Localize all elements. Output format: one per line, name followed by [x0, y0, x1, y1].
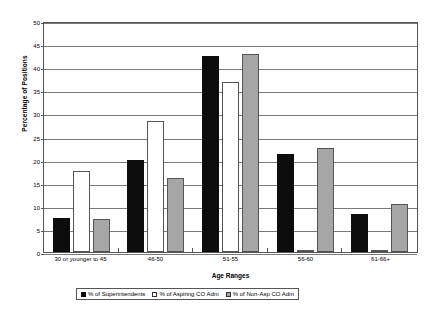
bar-3: [317, 148, 334, 252]
x-axis-tick-label: 56-60: [268, 256, 343, 268]
bar-group: [342, 23, 417, 252]
bar-group: [193, 23, 268, 252]
bar-2: [222, 82, 239, 252]
x-axis-tick-label: 30 or younger to 45: [43, 256, 118, 268]
y-axis-tick-label: 20: [0, 159, 40, 165]
legend-item-label: % of Superintendents: [88, 291, 145, 297]
y-axis-tick-label: 10: [0, 205, 40, 211]
black-square-swatch: [81, 292, 86, 297]
x-axis-tick-label: 51-55: [193, 256, 268, 268]
y-axis-tick-label: 25: [0, 136, 40, 142]
bar-groups: [44, 23, 417, 252]
x-axis-tick-label: 61-66+: [343, 256, 418, 268]
y-axis-tick-label: 0: [0, 251, 40, 257]
y-axis-tick-label: 50: [0, 20, 40, 26]
legend-item-label: % of Aspiring CO Adm: [159, 291, 218, 297]
bar-3: [93, 219, 110, 252]
legend-item: % of Aspiring CO Adm: [152, 291, 218, 297]
bar-1: [277, 154, 294, 252]
y-axis-tick-label: 45: [0, 43, 40, 49]
bar-3: [167, 178, 184, 252]
white-square-swatch: [152, 292, 157, 297]
bar-1: [351, 214, 368, 252]
bar-1: [127, 160, 144, 252]
bar-group: [268, 23, 343, 252]
x-axis-tick-label: 46-50: [118, 256, 193, 268]
bar-2: [73, 171, 90, 252]
y-tick-mark: [41, 254, 44, 255]
gridline: [44, 254, 417, 255]
bar-group: [119, 23, 194, 252]
legend-item: % of Non-Asp CO Adm: [226, 291, 294, 297]
bar-2: [371, 250, 388, 252]
chart-legend: % of Superintendents% of Aspiring CO Adm…: [76, 288, 299, 300]
y-axis-tick-label: 40: [0, 66, 40, 72]
y-axis-tick-label: 35: [0, 89, 40, 95]
gray-square-swatch: [226, 292, 231, 297]
x-axis-title: Age Ranges: [43, 272, 418, 279]
bar-3: [391, 204, 408, 252]
bar-2: [147, 121, 164, 252]
bar-2: [297, 250, 314, 252]
y-axis-tick-label: 30: [0, 112, 40, 118]
legend-item: % of Superintendents: [81, 291, 145, 297]
bar-group: [44, 23, 119, 252]
y-axis-tick-label: 5: [0, 228, 40, 234]
bar-3: [242, 54, 259, 252]
plot-area: 05101520253035404550: [43, 22, 418, 253]
y-axis-tick-label: 15: [0, 182, 40, 188]
legend-item-label: % of Non-Asp CO Adm: [233, 291, 294, 297]
x-axis-tick-labels: 30 or younger to 4546-5051-5556-6061-66+: [43, 256, 418, 268]
bar-1: [53, 218, 70, 252]
bar-chart: Percentage of Positions 0510152025303540…: [0, 0, 430, 312]
bar-1: [202, 56, 219, 252]
